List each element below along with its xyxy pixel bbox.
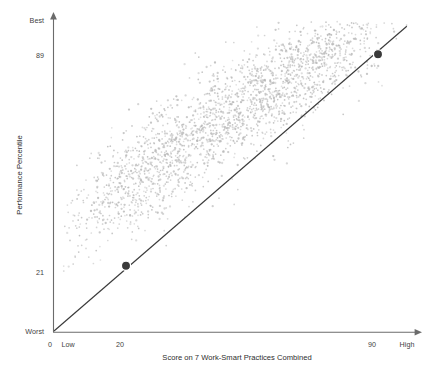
scatter-point xyxy=(197,79,199,81)
scatter-point xyxy=(340,48,342,50)
scatter-point xyxy=(229,122,231,124)
scatter-point xyxy=(181,99,183,101)
scatter-point xyxy=(157,183,159,185)
scatter-point xyxy=(282,82,284,84)
scatter-point xyxy=(167,181,169,183)
scatter-point xyxy=(249,108,251,110)
scatter-point xyxy=(304,93,306,95)
scatter-point xyxy=(253,64,255,66)
scatter-point xyxy=(272,108,274,110)
scatter-point xyxy=(310,59,312,61)
scatter-point xyxy=(227,124,229,126)
scatter-point xyxy=(343,43,345,45)
scatter-point xyxy=(151,130,153,132)
scatter-point xyxy=(258,75,260,77)
scatter-point xyxy=(319,73,321,75)
scatter-point xyxy=(142,156,144,158)
scatter-point xyxy=(178,141,180,143)
scatter-point xyxy=(189,140,191,142)
scatter-point xyxy=(290,144,292,146)
scatter-points-layer xyxy=(63,21,408,272)
scatter-point xyxy=(181,133,183,135)
scatter-point xyxy=(325,64,327,66)
scatter-point xyxy=(268,106,270,108)
scatter-point xyxy=(238,119,240,121)
scatter-point xyxy=(360,43,362,45)
scatter-point xyxy=(251,103,253,105)
scatter-point xyxy=(147,156,149,158)
scatter-point xyxy=(143,153,145,155)
scatter-point xyxy=(237,164,239,166)
scatter-point xyxy=(177,116,179,118)
scatter-point xyxy=(200,102,202,104)
scatter-point xyxy=(120,157,122,159)
scatter-point xyxy=(325,29,327,31)
scatter-point xyxy=(284,47,286,49)
scatter-point xyxy=(107,202,109,204)
scatter-point xyxy=(262,110,264,112)
scatter-point xyxy=(187,178,189,180)
scatter-point xyxy=(200,116,202,118)
scatter-point xyxy=(340,62,342,64)
scatter-point xyxy=(144,230,146,232)
scatter-point xyxy=(270,70,272,72)
scatter-point xyxy=(212,109,214,111)
scatter-point xyxy=(319,50,321,52)
scatter-point xyxy=(270,132,272,134)
scatter-point xyxy=(205,132,207,134)
scatter-point xyxy=(303,54,305,56)
scatter-point xyxy=(354,67,356,69)
scatter-point xyxy=(157,120,159,122)
scatter-point xyxy=(271,82,273,84)
scatter-point xyxy=(378,81,380,83)
scatter-point xyxy=(332,73,334,75)
scatter-point xyxy=(272,73,274,75)
scatter-point xyxy=(361,76,363,78)
scatter-point xyxy=(101,202,103,204)
scatter-point xyxy=(114,217,116,219)
scatter-point xyxy=(163,143,165,145)
scatter-point xyxy=(275,96,277,98)
scatter-point xyxy=(234,80,236,82)
scatter-point xyxy=(359,49,361,51)
scatter-point xyxy=(116,165,118,167)
scatter-point xyxy=(296,45,298,47)
scatter-point xyxy=(154,158,156,160)
scatter-point xyxy=(191,183,193,185)
scatter-point xyxy=(205,93,207,95)
scatter-point xyxy=(77,219,79,221)
scatter-point xyxy=(242,59,244,61)
scatter-point xyxy=(166,145,168,147)
scatter-point xyxy=(162,166,164,168)
scatter-point xyxy=(241,118,243,120)
scatter-point xyxy=(273,129,275,131)
scatter-point xyxy=(178,121,180,123)
scatter-point xyxy=(214,140,216,142)
scatter-point xyxy=(117,189,119,191)
scatter-point xyxy=(145,191,147,193)
scatter-point xyxy=(279,107,281,109)
scatter-point xyxy=(127,227,129,229)
scatter-point xyxy=(281,94,283,96)
scatter-point xyxy=(207,135,209,137)
scatter-point xyxy=(256,107,258,109)
scatter-point xyxy=(117,213,119,215)
scatter-point xyxy=(358,100,360,102)
scatter-point xyxy=(132,191,134,193)
scatter-point xyxy=(238,96,240,98)
scatter-point xyxy=(152,183,154,185)
scatter-point xyxy=(330,75,332,77)
scatter-point xyxy=(153,142,155,144)
scatter-point xyxy=(253,117,255,119)
scatter-point xyxy=(250,112,252,114)
scatter-point xyxy=(255,54,257,56)
scatter-point xyxy=(182,128,184,130)
scatter-point xyxy=(293,49,295,51)
scatter-point xyxy=(91,204,93,206)
scatter-point xyxy=(139,181,141,183)
scatter-point xyxy=(310,96,312,98)
scatter-point xyxy=(338,75,340,77)
scatter-point xyxy=(339,23,341,25)
scatter-point xyxy=(280,118,282,120)
scatter-point xyxy=(329,33,331,35)
